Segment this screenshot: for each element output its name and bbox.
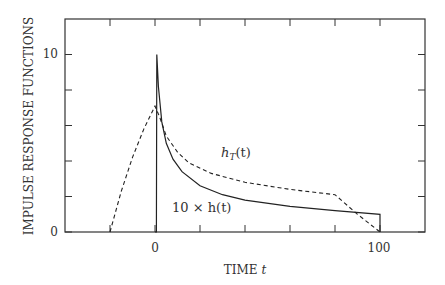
annotation-hT: hT(t) — [221, 145, 251, 162]
annotation-h: 10 × h(t) — [172, 200, 231, 215]
y-tick-label-10: 10 — [43, 47, 58, 61]
x-tick-label-0: 0 — [151, 241, 159, 255]
curve-hT-dashed — [110, 106, 380, 232]
annotation-hT-base: h — [221, 145, 229, 160]
x-tick-label-100: 100 — [368, 241, 391, 255]
annotation-hT-arg: (t) — [235, 145, 250, 160]
x-axis-label-var: t — [261, 263, 266, 277]
x-axis-label: TIME t — [224, 263, 267, 277]
y-axis-label: IMPULSE RESPONSE FUNCTIONS — [22, 17, 36, 235]
impulse-response-chart: 0 10 0 100 TIME t IMPULSE RESPONSE FUNCT… — [0, 0, 445, 285]
y-tick-label-0: 0 — [50, 225, 58, 239]
curves — [110, 55, 380, 233]
x-axis-label-text: TIME — [224, 263, 262, 277]
